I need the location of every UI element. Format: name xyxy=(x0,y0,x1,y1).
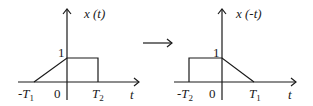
right-origin-label: 0 xyxy=(209,87,216,100)
left-origin-label: 0 xyxy=(54,87,61,100)
left-signal xyxy=(34,58,98,82)
right-xlabel: t xyxy=(288,88,292,101)
right-level-label: 1 xyxy=(213,46,220,59)
transform-arrow xyxy=(143,39,172,47)
left-level-label: 1 xyxy=(58,46,65,59)
left-pos-tick: T2 xyxy=(92,87,104,103)
right-ylabel: x (-t) xyxy=(236,7,262,20)
left-xlabel: t xyxy=(130,88,134,101)
left-neg-tick: -T1 xyxy=(18,87,34,103)
diagram-canvas xyxy=(0,0,313,106)
left-plot xyxy=(18,9,139,100)
right-pos-tick: T1 xyxy=(249,87,261,103)
left-ylabel: x (t) xyxy=(84,7,105,20)
right-neg-tick: -T2 xyxy=(177,87,193,103)
